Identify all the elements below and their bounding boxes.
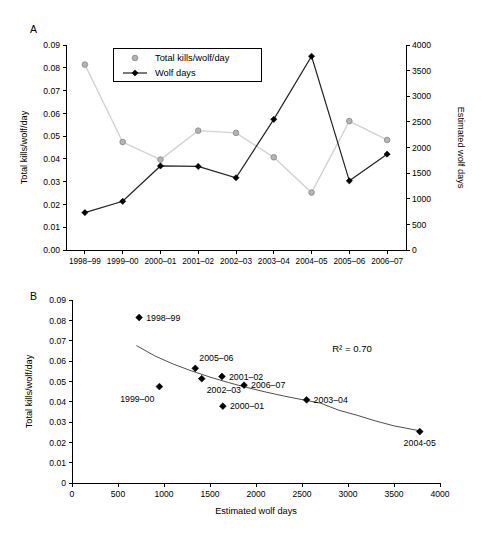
figure-svg: A0.000.010.020.030.040.050.060.070.080.0… bbox=[0, 0, 482, 535]
panel-b-y-tick-label: 0.01 bbox=[49, 458, 66, 468]
panel-b-x-tick-label: 500 bbox=[111, 489, 126, 499]
panel-b-y-tick-label: 0.04 bbox=[49, 397, 66, 407]
panel-a-marker-circle bbox=[158, 157, 164, 163]
panel-a-marker-circle bbox=[309, 190, 315, 196]
panel-b-point-marker bbox=[136, 314, 143, 321]
panel-b-point-marker bbox=[198, 375, 205, 382]
panel-b-point-label: 1998–99 bbox=[146, 313, 180, 323]
panel-b-point-label: 2000–01 bbox=[230, 401, 264, 411]
legend-marker-circle bbox=[132, 55, 138, 61]
panel-a-right-tick-label: 3000 bbox=[412, 91, 431, 101]
panel-b-y-tick-label: 0.03 bbox=[49, 417, 66, 427]
panel-a-ylabel-left: Total kills/wolf/day bbox=[19, 110, 29, 184]
panel-b: B00.010.020.030.040.050.060.070.080.0905… bbox=[24, 290, 450, 516]
panel-a-left-tick-label: 0.02 bbox=[43, 200, 60, 210]
panel-b-label: B bbox=[30, 290, 37, 302]
panel-a-marker-circle bbox=[233, 130, 239, 136]
panel-a-x-tick-label: 2000–01 bbox=[145, 257, 177, 266]
panel-a-marker-circle bbox=[120, 139, 126, 145]
panel-b-point-marker bbox=[416, 428, 423, 435]
panel-a-x-tick-label: 2005–06 bbox=[333, 257, 365, 266]
panel-a-x-tick-label: 1998–99 bbox=[69, 257, 101, 266]
legend-label-1: Total kills/wolf/day bbox=[155, 53, 230, 63]
panel-a-marker-diamond bbox=[195, 163, 201, 169]
panel-b-r2-annotation: R² = 0.70 bbox=[332, 343, 372, 354]
panel-b-point-label: 2004-05 bbox=[404, 438, 436, 448]
panel-a-left-tick-label: 0.04 bbox=[43, 154, 60, 164]
panel-b-point-marker bbox=[219, 373, 226, 380]
panel-a-x-tick-label: 2003–04 bbox=[258, 257, 290, 266]
panel-a-x-tick-label: 2001–02 bbox=[182, 257, 214, 266]
panel-b-y-tick-label: 0.07 bbox=[49, 336, 66, 346]
panel-a-x-tick-label: 1999–00 bbox=[107, 257, 139, 266]
panel-b-y-tick-label: 0.05 bbox=[49, 377, 66, 387]
panel-b-x-tick-label: 1500 bbox=[200, 489, 219, 499]
panel-b-xlabel: Estimated wolf days bbox=[215, 506, 297, 516]
panel-b-y-tick-label: 0.08 bbox=[49, 316, 66, 326]
panel-a-label: A bbox=[30, 23, 37, 35]
panel-a-left-tick-label: 0.09 bbox=[43, 40, 60, 50]
panel-a-left-tick-label: 0.07 bbox=[43, 86, 60, 96]
panel-a-left-tick-label: 0.08 bbox=[43, 63, 60, 73]
panel-a: A0.000.010.020.030.040.050.060.070.080.0… bbox=[19, 23, 466, 266]
panel-a-left-tick-label: 0.06 bbox=[43, 109, 60, 119]
panel-a-right-tick-label: 500 bbox=[412, 220, 427, 230]
panel-a-right-tick-label: 3500 bbox=[412, 66, 431, 76]
panel-b-point-label: 2006–07 bbox=[251, 380, 285, 390]
panel-a-marker-circle bbox=[271, 154, 277, 160]
panel-a-marker-diamond bbox=[271, 116, 277, 122]
panel-a-left-tick-label: 0.03 bbox=[43, 177, 60, 187]
panel-a-marker-circle bbox=[82, 62, 88, 68]
panel-b-y-tick-label: 0.09 bbox=[49, 295, 66, 305]
panel-b-point-label: 2002–03 bbox=[207, 385, 241, 395]
panel-a-marker-diamond bbox=[308, 53, 314, 59]
legend-label-2: Wolf days bbox=[155, 68, 196, 78]
panel-a-left-tick-label: 0.00 bbox=[43, 245, 60, 255]
panel-b-point-label: 1999–00 bbox=[120, 394, 154, 404]
panel-b-point-marker bbox=[156, 383, 163, 390]
panel-a-left-tick-label: 0.01 bbox=[43, 222, 60, 232]
panel-b-x-tick-label: 3500 bbox=[384, 489, 403, 499]
panel-b-point-marker bbox=[219, 403, 226, 410]
panel-b-y-tick-label: 0.06 bbox=[49, 356, 66, 366]
panel-a-marker-diamond bbox=[233, 175, 239, 181]
panel-a-right-tick-label: 0 bbox=[412, 245, 417, 255]
panel-a-marker-circle bbox=[384, 137, 390, 143]
panel-a-ylabel-right: Estimated wolf days bbox=[456, 107, 466, 189]
panel-b-point-label: 2005–06 bbox=[199, 353, 233, 363]
panel-b-point-marker bbox=[303, 396, 310, 403]
panel-b-y-tick-label: 0.02 bbox=[49, 438, 66, 448]
panel-b-x-tick-label: 0 bbox=[70, 489, 75, 499]
panel-a-right-tick-label: 2500 bbox=[412, 117, 431, 127]
panel-a-marker-circle bbox=[347, 118, 353, 124]
figure-container: A0.000.010.020.030.040.050.060.070.080.0… bbox=[0, 0, 482, 535]
panel-a-series-line-1 bbox=[85, 65, 387, 193]
panel-b-x-tick-label: 2000 bbox=[246, 489, 265, 499]
panel-a-right-tick-label: 4000 bbox=[412, 40, 431, 50]
panel-a-left-tick-label: 0.05 bbox=[43, 131, 60, 141]
panel-b-point-label: 2003–04 bbox=[314, 395, 348, 405]
panel-a-marker-diamond bbox=[82, 209, 88, 215]
panel-a-right-tick-label: 1500 bbox=[412, 168, 431, 178]
panel-a-marker-circle bbox=[195, 128, 201, 134]
panel-b-x-tick-label: 2500 bbox=[292, 489, 311, 499]
panel-a-right-tick-label: 2000 bbox=[412, 143, 431, 153]
panel-b-y-tick-label: 0 bbox=[61, 478, 66, 488]
panel-a-x-tick-label: 2006–07 bbox=[371, 257, 403, 266]
panel-a-x-tick-label: 2004–05 bbox=[296, 257, 328, 266]
panel-b-x-tick-label: 1000 bbox=[154, 489, 173, 499]
panel-b-x-tick-label: 3000 bbox=[338, 489, 357, 499]
panel-b-point-marker bbox=[192, 365, 199, 372]
panel-b-ylabel: Total kills/wolf/day bbox=[24, 354, 34, 428]
panel-a-x-tick-label: 2002–03 bbox=[220, 257, 252, 266]
panel-a-right-tick-label: 1000 bbox=[412, 194, 431, 204]
panel-b-x-tick-label: 4000 bbox=[430, 489, 449, 499]
